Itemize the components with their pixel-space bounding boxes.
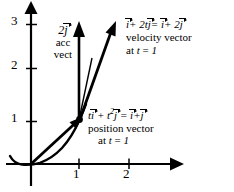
velocity-vector xyxy=(80,21,116,119)
acceleration-j-vector: j xyxy=(64,24,67,37)
position-t-value: 1 xyxy=(123,134,129,146)
acceleration-line-2: vect xyxy=(46,49,80,61)
position-eq-term-t2: + t xyxy=(97,109,110,121)
position-equals: = xyxy=(112,134,124,146)
velocity-equals: = xyxy=(140,44,152,56)
x-tick-label-1: 1 xyxy=(73,167,80,181)
acceleration-head-line: 2j xyxy=(46,24,80,37)
velocity-i-vector-2: i xyxy=(161,19,164,31)
velocity-j-vector-2: j xyxy=(180,19,183,31)
velocity-t-value: 1 xyxy=(151,44,157,56)
velocity-caption: velocity vector xyxy=(126,32,192,44)
y-tick-label-3: 3 xyxy=(11,14,18,28)
position-vector-shaft xyxy=(31,123,76,165)
y-tick-label-1: 1 xyxy=(11,111,18,125)
position-caption: position vector xyxy=(88,123,154,135)
velocity-vector-arrowhead xyxy=(106,21,117,37)
position-j-vector-1: j xyxy=(114,110,117,122)
velocity-equation: i+ 2tj= i+ 2j xyxy=(126,19,192,31)
parabola-curve xyxy=(10,104,86,165)
position-equation: ti + t2j = i+j xyxy=(88,108,154,122)
position-j-vector-2: j xyxy=(141,110,144,122)
velocity-time-line: at t = 1 xyxy=(126,45,192,57)
velocity-j-vector-1: j xyxy=(148,19,151,31)
position-i-vector-1: i xyxy=(91,110,94,122)
position-time-line: at t = 1 xyxy=(98,135,154,147)
velocity-annotation: i+ 2tj= i+ 2j velocity vector at t = 1 xyxy=(126,19,192,57)
vector-calculus-figure: 3 2 1 1 2 2j acc vect i+ 2tj= i+ 2j velo… xyxy=(0,0,234,192)
x-tick-label-2: 2 xyxy=(123,167,130,181)
y-tick-label-2: 2 xyxy=(11,58,18,72)
velocity-at-prefix: at xyxy=(126,44,137,56)
x-axis-arrowhead xyxy=(170,158,184,171)
velocity-vector-shaft xyxy=(80,32,111,119)
position-i-vector-2: i xyxy=(130,110,133,122)
position-annotation: ti + t2j = i+j position vector at t = 1 xyxy=(88,108,154,147)
acceleration-annotation: 2j acc vect xyxy=(46,24,80,61)
plot-canvas xyxy=(0,0,234,192)
velocity-i-vector-1: i xyxy=(126,19,129,31)
y-axis-arrowhead xyxy=(25,1,38,14)
position-at-prefix: at xyxy=(98,134,109,146)
position-vector xyxy=(31,117,83,165)
